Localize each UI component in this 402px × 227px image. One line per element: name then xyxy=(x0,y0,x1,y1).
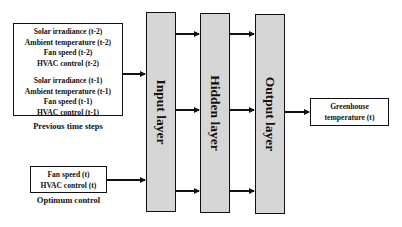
connection-arrows xyxy=(0,0,402,227)
